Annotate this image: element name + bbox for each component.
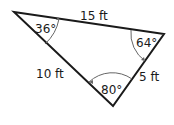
- angle-label-b: 64°: [136, 36, 157, 50]
- angle-arc-c: [89, 73, 132, 82]
- side-label-right: 5 ft: [139, 70, 159, 84]
- triangle-diagram: 15 ft 5 ft 10 ft 36° 64° 80°: [0, 0, 174, 125]
- side-label-top: 15 ft: [80, 9, 108, 23]
- angle-label-c: 80°: [101, 83, 122, 97]
- side-label-left: 10 ft: [36, 67, 64, 81]
- angle-label-a: 36°: [35, 22, 56, 36]
